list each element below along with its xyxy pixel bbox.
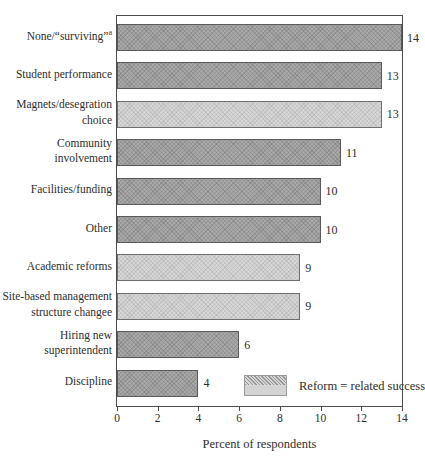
category-label: Hiring new superintendent	[0, 328, 112, 359]
axis-tick	[361, 406, 362, 411]
bar-7	[117, 254, 300, 281]
value-label: 10	[326, 184, 338, 199]
value-label: 10	[326, 222, 338, 237]
bar-1	[117, 24, 402, 51]
tick-label: 4	[196, 412, 202, 424]
category-label: Academic reforms	[0, 259, 112, 275]
legend-label: Reform = related success	[299, 379, 425, 394]
axis-tick	[158, 406, 159, 411]
bar-10	[117, 370, 198, 397]
value-label: 4	[203, 376, 209, 391]
x-axis-title: Percent of respondents	[116, 437, 403, 452]
tick-label: 2	[155, 412, 161, 424]
tick-label: 12	[356, 412, 368, 424]
bar-2	[117, 62, 382, 89]
value-label: 11	[346, 145, 358, 160]
value-label: 6	[244, 337, 250, 352]
value-label: 14	[407, 30, 419, 45]
bar-3	[117, 101, 382, 128]
category-label-text: Site-based management structure changee	[2, 291, 112, 319]
axis-tick	[239, 406, 240, 411]
axis-tick	[280, 406, 281, 411]
value-label: 13	[387, 107, 399, 122]
category-label-text: Facilities/funding	[31, 183, 112, 195]
category-label: Community involvement	[0, 136, 112, 167]
axis-tick	[402, 406, 403, 411]
category-label-text: Student performance	[16, 68, 112, 80]
category-label: Discipline	[0, 374, 112, 390]
bar-4	[117, 139, 341, 166]
axis-tick	[198, 406, 199, 411]
category-label-text: Community involvement	[55, 137, 113, 165]
value-label: 13	[387, 68, 399, 83]
category-label-text: Magnets/desegration choice	[16, 99, 112, 127]
category-label: Student performance	[0, 67, 112, 83]
category-label: Other	[0, 221, 112, 237]
bar-8	[117, 293, 300, 320]
category-label: Site-based management structure changee	[0, 290, 112, 321]
category-label-text: None/“surviving”	[27, 30, 109, 42]
bar-6	[117, 216, 321, 243]
tick-label: 14	[396, 412, 408, 424]
category-label: Magnets/desegration choice	[0, 98, 112, 129]
category-label-text: Other	[86, 222, 112, 234]
bar-9	[117, 331, 239, 358]
tick-label: 10	[315, 412, 327, 424]
category-label: None/“surviving”a	[0, 29, 112, 45]
tick-label: 6	[236, 412, 242, 424]
value-label: 9	[305, 299, 311, 314]
legend-swatch	[244, 375, 287, 396]
bar-chart-figure: 1413131110109964 Reform = related succes…	[0, 0, 425, 463]
category-label-superscript: a	[108, 28, 112, 37]
category-label-text: Academic reforms	[27, 260, 112, 272]
category-label-text: Discipline	[65, 375, 112, 387]
category-label-text: Hiring new superintendent	[44, 329, 112, 357]
axis-tick	[117, 406, 118, 411]
bar-5	[117, 178, 321, 205]
tick-label: 0	[114, 412, 120, 424]
plot-area: 1413131110109964	[116, 15, 403, 407]
tick-label: 8	[277, 412, 283, 424]
value-label: 9	[305, 260, 311, 275]
axis-tick	[321, 406, 322, 411]
category-label: Facilities/funding	[0, 182, 112, 198]
